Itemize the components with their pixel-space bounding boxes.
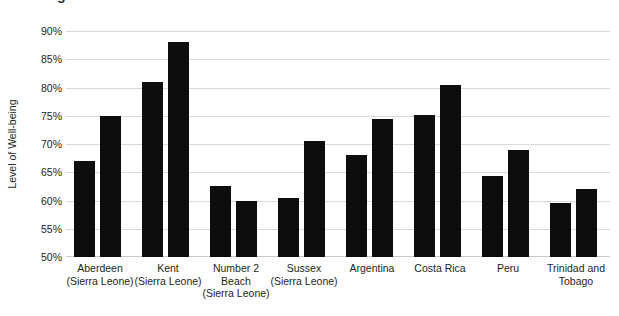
x-axis-label-line: (Sierra Leone): [193, 287, 279, 300]
bar-group: [270, 31, 338, 257]
y-axis-tick-label: 90%: [18, 26, 62, 37]
y-axis-tick-label: 75%: [18, 111, 62, 122]
bar[interactable]: [440, 85, 461, 257]
bar-group: [134, 31, 202, 257]
bar-group: [406, 31, 474, 257]
bar[interactable]: [100, 116, 121, 257]
bar[interactable]: [346, 155, 367, 257]
y-axis-tick-label: 85%: [18, 54, 62, 65]
bar[interactable]: [236, 201, 257, 258]
y-axis-tick-label: 65%: [18, 167, 62, 178]
bar[interactable]: [550, 203, 571, 257]
bar[interactable]: [372, 119, 393, 257]
bar[interactable]: [74, 161, 95, 257]
chart-title: Wellbeing of local communities: [2, 0, 204, 3]
bar[interactable]: [278, 198, 299, 257]
x-axis-label: Trinidad andTobago: [533, 262, 619, 287]
x-axis-label-line: (Sierra Leone): [261, 275, 347, 288]
plot-area: [66, 31, 610, 257]
bar-group: [202, 31, 270, 257]
bar-group: [474, 31, 542, 257]
x-axis-label-line: Trinidad and: [533, 262, 619, 275]
bar[interactable]: [142, 82, 163, 257]
y-axis-title-text: Level of Well-being: [6, 69, 18, 219]
y-axis-tick-label: 60%: [18, 196, 62, 207]
y-axis-tick-label: 80%: [18, 83, 62, 94]
bar[interactable]: [508, 150, 529, 257]
bar[interactable]: [414, 115, 435, 257]
y-axis-tick-label: 70%: [18, 139, 62, 150]
bar-group: [338, 31, 406, 257]
y-axis-tick-label: 55%: [18, 224, 62, 235]
y-axis-tick-label: 50%: [18, 252, 62, 263]
bar[interactable]: [304, 141, 325, 257]
bar[interactable]: [482, 176, 503, 257]
chart-title-cropped: Wellbeing of local communities: [0, 0, 619, 5]
bar-chart: Wellbeing of local communities Level of …: [0, 0, 619, 316]
x-axis-label-line: Tobago: [533, 275, 619, 288]
bar-group: [542, 31, 610, 257]
bar[interactable]: [168, 42, 189, 257]
bar[interactable]: [210, 186, 231, 257]
bar-group: [66, 31, 134, 257]
bar[interactable]: [576, 189, 597, 257]
